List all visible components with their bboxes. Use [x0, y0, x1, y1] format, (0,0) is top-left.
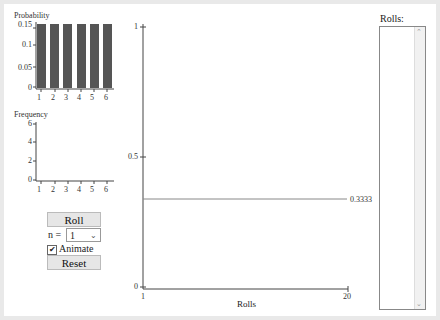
prob-xtick: 1 — [37, 93, 41, 102]
n-label: n = — [48, 229, 61, 240]
freq-ytick: 4 — [4, 137, 32, 146]
prob-xtick: 3 — [64, 93, 68, 102]
scroll-up-icon[interactable]: ⌃ — [416, 28, 422, 36]
animate-toggle[interactable]: ✔ Animate — [47, 243, 101, 255]
freq-xtick: 1 — [37, 185, 41, 194]
scroll-down-icon[interactable]: ⌄ — [416, 300, 422, 308]
animate-label: Animate — [59, 243, 93, 254]
prob-xtick: 5 — [90, 93, 94, 102]
freq-xtick: 6 — [104, 185, 108, 194]
freq-ytick: 0 — [4, 175, 32, 184]
rolls-scrollbar[interactable]: ⌃ ⌄ — [414, 27, 425, 309]
main-xtick: 1 — [141, 292, 145, 301]
freq-xtick: 2 — [51, 185, 55, 194]
n-value: 1 — [70, 230, 75, 241]
freq-xtick: 4 — [77, 185, 81, 194]
prob-xtick: 2 — [51, 93, 55, 102]
probability-bars — [37, 24, 112, 88]
line-value-label: 0.3333 — [350, 195, 372, 204]
main-ytick: 0.5 — [120, 152, 138, 161]
freq-ytick: 2 — [4, 156, 32, 165]
main-xlabel: Rolls — [237, 299, 256, 309]
n-select[interactable]: 1 ⌄ — [66, 228, 101, 242]
roll-button[interactable]: Roll — [47, 212, 101, 227]
freq-xtick: 3 — [64, 185, 68, 194]
frequency-title: Frequency — [14, 110, 48, 119]
prob-xtick: 4 — [77, 93, 81, 102]
rolls-title: Rolls: — [380, 13, 404, 24]
main-ytick: 0 — [126, 282, 138, 291]
freq-ytick: 6 — [4, 119, 32, 128]
plots-svg — [0, 0, 440, 320]
main-ytick: 1 — [126, 22, 138, 31]
reset-button[interactable]: Reset — [47, 255, 101, 270]
freq-xtick: 5 — [90, 185, 94, 194]
animate-checkbox[interactable]: ✔ — [47, 245, 57, 255]
prob-xtick: 6 — [104, 93, 108, 102]
chevron-down-icon: ⌄ — [90, 229, 97, 242]
main-xtick: 20 — [343, 292, 351, 301]
rolls-listbox[interactable]: ⌃ ⌄ — [379, 26, 426, 310]
